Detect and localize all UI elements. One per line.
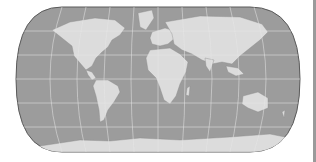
world-map bbox=[0, 0, 316, 162]
world-map-svg bbox=[0, 0, 316, 162]
vertical-divider bbox=[313, 0, 316, 162]
